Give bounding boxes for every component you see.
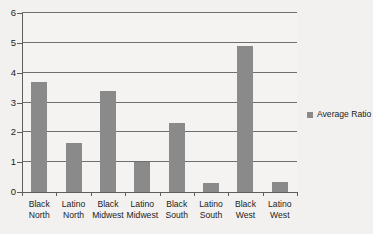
bar-slot (91, 13, 125, 192)
x-axis-label: LatinoWest (263, 199, 297, 221)
bar-slot (125, 13, 159, 192)
bar-slot (194, 13, 228, 192)
bar[interactable] (134, 162, 150, 192)
x-axis-label-line1: Black (22, 199, 56, 210)
x-axis-label-line1: Latino (56, 199, 90, 210)
x-axis-label: LatinoNorth (56, 199, 90, 221)
x-axis-labels: BlackNorthLatinoNorthBlackMidwestLatinoM… (22, 199, 297, 231)
y-tick-label-5: 5 (2, 38, 16, 48)
y-tick-label-2: 2 (2, 127, 16, 137)
x-axis-label-line2: North (22, 210, 56, 221)
x-tick (263, 192, 264, 196)
x-axis-label-line1: Black (91, 199, 125, 210)
x-axis-label-line2: North (56, 210, 90, 221)
bar[interactable] (31, 82, 47, 192)
bar-slot (56, 13, 90, 192)
x-axis-label: BlackWest (228, 199, 262, 221)
bar[interactable] (272, 182, 288, 192)
legend-swatch-icon (307, 112, 313, 118)
bar[interactable] (66, 143, 82, 192)
x-axis-label-line2: West (263, 210, 297, 221)
x-axis-label-line2: West (228, 210, 262, 221)
x-axis-label: BlackSouth (160, 199, 194, 221)
bar[interactable] (100, 91, 116, 192)
y-tick-label-1: 1 (2, 157, 16, 167)
y-tick-label-6: 6 (2, 8, 16, 18)
legend-label-average-ratio: Average Ratio (317, 110, 371, 119)
x-axis-label-line1: Latino (194, 199, 228, 210)
y-tick-label-0: 0 (2, 187, 16, 197)
bar-slot (228, 13, 262, 192)
bar-slot (22, 13, 56, 192)
x-tick (91, 192, 92, 196)
x-tick (297, 192, 298, 196)
bar[interactable] (203, 183, 219, 192)
x-axis-label-line2: South (194, 210, 228, 221)
x-axis-label: BlackNorth (22, 199, 56, 221)
x-tick (56, 192, 57, 196)
x-tick (228, 192, 229, 196)
x-axis-label: LatinoSouth (194, 199, 228, 221)
bars-container (22, 13, 297, 192)
bar-chart: 0123456 BlackNorthLatinoNorthBlackMidwes… (0, 0, 373, 234)
x-tick (160, 192, 161, 196)
x-tick (22, 192, 23, 196)
y-tick-label-4: 4 (2, 68, 16, 78)
x-axis-label: LatinoMidwest (125, 199, 159, 221)
bar[interactable] (169, 123, 185, 192)
x-axis-label: BlackMidwest (91, 199, 125, 221)
x-axis-label-line1: Black (228, 199, 262, 210)
x-axis-label-line1: Latino (125, 199, 159, 210)
bar-slot (263, 13, 297, 192)
bar-slot (160, 13, 194, 192)
y-tick-label-3: 3 (2, 98, 16, 108)
x-axis-label-line2: Midwest (91, 210, 125, 221)
bar[interactable] (237, 46, 253, 192)
x-axis-label-line2: South (160, 210, 194, 221)
x-axis-label-line1: Latino (263, 199, 297, 210)
chart-legend: Average Ratio (307, 110, 371, 119)
x-tick (125, 192, 126, 196)
x-axis-label-line2: Midwest (125, 210, 159, 221)
x-tick (194, 192, 195, 196)
x-axis-label-line1: Black (160, 199, 194, 210)
